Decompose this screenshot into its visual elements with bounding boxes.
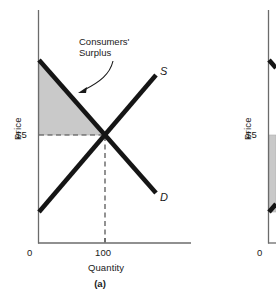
producers-surplus-region <box>269 135 276 212</box>
panel-a-caption: (a) <box>0 278 200 289</box>
origin-label-b: 0 <box>257 247 262 258</box>
annotation-arrow <box>84 61 113 90</box>
demand-curve-b <box>269 60 276 68</box>
consumers-surplus-annotation-line2: Surplus <box>79 47 111 59</box>
annotation-arrowhead-icon <box>78 87 87 93</box>
y-tick-label-price: $5 <box>16 129 27 140</box>
y-tick-label-price-b: $5 <box>246 129 257 140</box>
panel-b: Price $5 0 <box>200 0 276 299</box>
x-tick-label-quantity: 100 <box>95 247 111 258</box>
origin-label-a: 0 <box>27 247 32 258</box>
consumers-surplus-annotation-line1: Consumers' <box>79 36 129 48</box>
panel-b-plot <box>200 0 276 299</box>
x-axis-title-a: Quantity <box>88 262 124 273</box>
supply-curve-label: S <box>160 66 167 77</box>
figure-root: Price $5 0 100 Quantity Consumers' Surpl… <box>0 0 276 299</box>
panel-a: Price $5 0 100 Quantity Consumers' Surpl… <box>0 0 200 299</box>
demand-curve-label: D <box>160 192 168 203</box>
